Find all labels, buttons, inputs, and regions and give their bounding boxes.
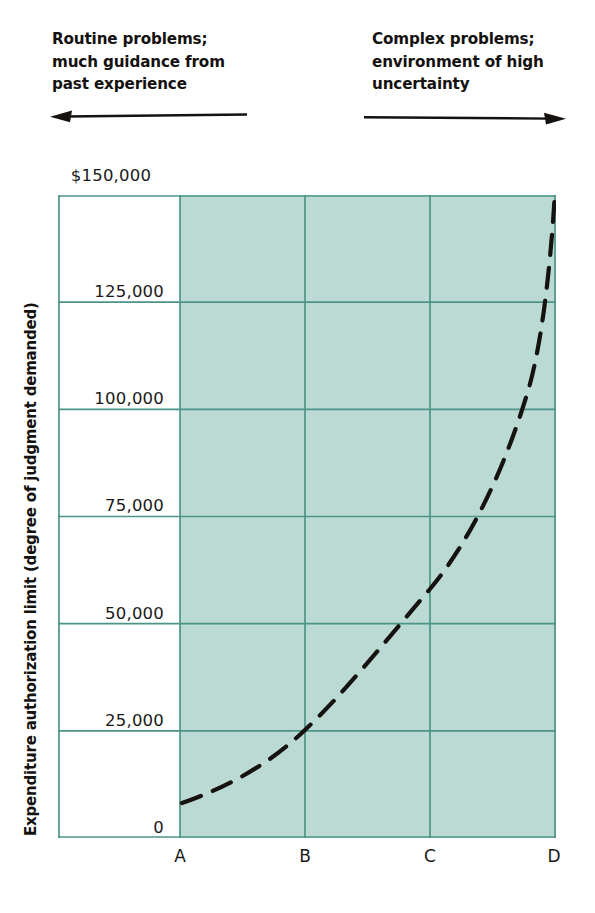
x-tick-label-a: A [160,846,200,866]
x-tick-label-c: C [410,846,450,866]
y-tick-label-25000: 25,000 [58,711,164,730]
y-tick-label-100000: 100,000 [58,389,164,408]
y-axis-title: Expenditure authorization limit (degree … [18,196,44,836]
header-band: Routine problems; much guidance from pas… [0,0,595,150]
header-right-block: Complex problems; environment of high un… [372,28,587,96]
arrow-right-icon [364,110,566,126]
x-tick-label-d: D [534,846,574,866]
y-tick-label-0: 0 [58,818,164,837]
y-tick-label-75000: 75,000 [58,496,164,515]
y-tick-label-150000: $150,000 [58,166,164,185]
complex-problems-caption: Complex problems; environment of high un… [372,28,587,96]
x-tick-label-b: B [285,846,325,866]
arrow-left-icon [50,108,248,124]
header-left-block: Routine problems; much guidance from pas… [52,28,282,96]
routine-problems-caption: Routine problems; much guidance from pas… [52,28,282,96]
y-tick-label-125000: 125,000 [58,282,164,301]
y-tick-label-50000: 50,000 [58,604,164,623]
